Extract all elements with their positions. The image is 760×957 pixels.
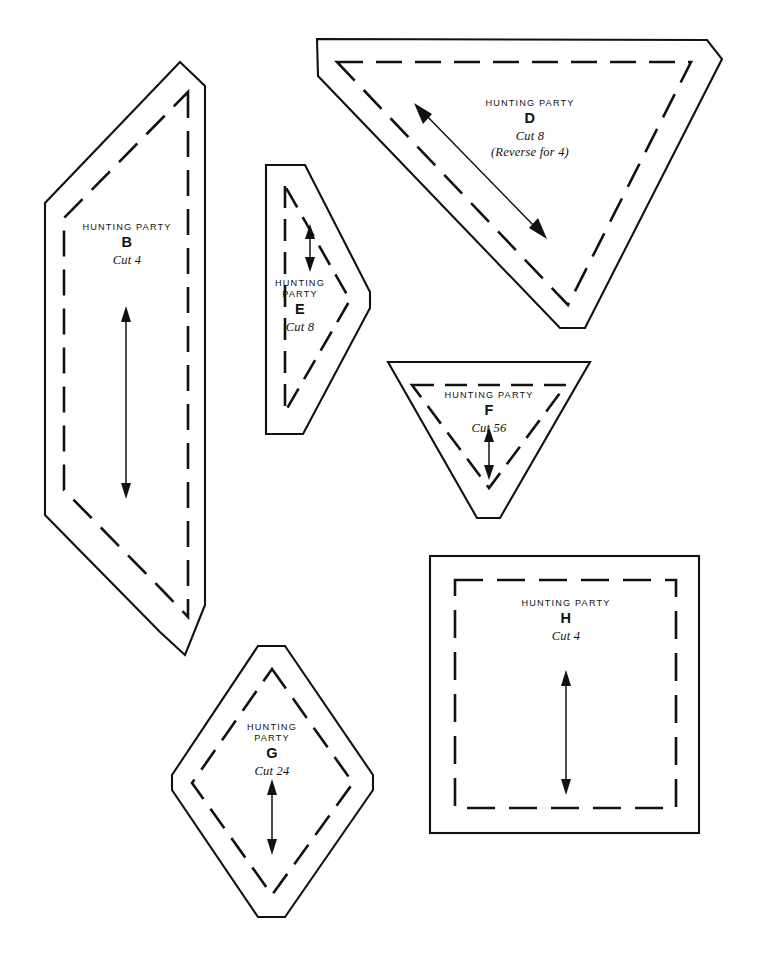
template-b-cut: Cut 4	[60, 253, 194, 268]
template-e-letter: E	[266, 301, 334, 318]
template-e-cut: Cut 8	[266, 320, 334, 335]
pattern-sheet: HUNTING PARTY B Cut 4 HUNTING PARTY D Cu…	[0, 0, 760, 957]
template-g-letter: G	[238, 745, 306, 762]
template-g-title-line-1: HUNTING	[238, 722, 306, 733]
template-shape-g	[172, 646, 373, 917]
template-shape-b	[45, 62, 205, 655]
template-g-cut: Cut 24	[238, 764, 306, 779]
template-f-title: HUNTING PARTY	[422, 390, 556, 401]
template-e-grainline	[305, 224, 315, 272]
template-f-cut: Cut 56	[422, 421, 556, 436]
template-b-grainline	[121, 306, 131, 499]
template-b-letter: B	[60, 234, 194, 251]
template-h-label: HUNTING PARTY H Cut 4	[499, 598, 633, 644]
template-d-title: HUNTING PARTY	[440, 98, 620, 109]
template-d-cutting-line	[317, 39, 722, 328]
template-shape-f	[388, 362, 590, 518]
template-b-label: HUNTING PARTY B Cut 4	[60, 222, 194, 268]
template-d-note: (Reverse for 4)	[440, 145, 620, 160]
template-b-cutting-line	[45, 62, 205, 655]
template-b-title: HUNTING PARTY	[60, 222, 194, 233]
template-e-label: HUNTING PARTY E Cut 8	[266, 278, 334, 335]
template-h-letter: H	[499, 610, 633, 627]
template-d-label: HUNTING PARTY D Cut 8 (Reverse for 4)	[440, 98, 620, 159]
template-f-label: HUNTING PARTY F Cut 56	[422, 390, 556, 436]
template-shape-d	[317, 39, 722, 328]
template-g-label: HUNTING PARTY G Cut 24	[238, 722, 306, 779]
template-h-cut: Cut 4	[499, 629, 633, 644]
template-g-grainline	[267, 779, 277, 855]
pattern-drawing	[0, 0, 760, 957]
template-e-title-line-2: PARTY	[266, 289, 334, 300]
template-d-letter: D	[440, 110, 620, 127]
template-h-grainline	[561, 670, 571, 795]
template-e-title-line-1: HUNTING	[266, 278, 334, 289]
template-d-cut: Cut 8	[440, 129, 620, 144]
template-g-title-line-2: PARTY	[238, 733, 306, 744]
template-h-title: HUNTING PARTY	[499, 598, 633, 609]
template-f-letter: F	[422, 402, 556, 419]
